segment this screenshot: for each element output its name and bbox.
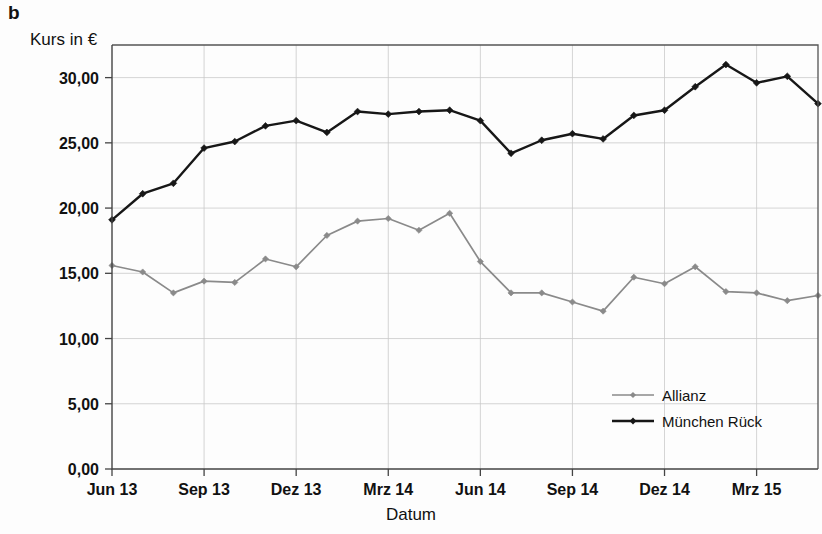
data-point-marker [293,117,300,124]
chart-legend: AllianzMünchen Rück [612,387,763,430]
legend-item[interactable]: München Rück [612,413,763,430]
x-tick-label: Jun 14 [455,481,506,498]
data-point-marker [354,218,360,224]
x-tick-label: Mrz 15 [732,481,782,498]
y-tick-label: 20,00 [59,200,99,217]
x-tick-label: Mrz 14 [363,481,413,498]
line-chart: 0,005,0010,0015,0020,0025,0030,00 Jun 13… [0,0,822,534]
x-tick-label: Dez 13 [271,481,322,498]
figure-panel: b Kurs in € Datum 0,005,0010,0015,0020,0… [0,0,822,534]
axis-lines [112,45,818,469]
x-tick-labels: Jun 13Sep 13Dez 13Mrz 14Jun 14Sep 14Dez … [87,481,782,498]
y-tick-label: 15,00 [59,265,99,282]
legend-marker [630,418,637,425]
data-point-marker [784,298,790,304]
legend-label: München Rück [662,413,763,430]
legend-marker [630,392,636,398]
y-tick-marks [105,78,112,469]
data-point-marker [416,108,423,115]
x-tick-marks [112,469,757,476]
data-series-layer [109,61,822,314]
series-line [112,65,818,220]
series-allianz [109,210,821,314]
y-tick-label: 25,00 [59,135,99,152]
y-tick-label: 10,00 [59,331,99,348]
x-tick-label: Sep 14 [547,481,599,498]
gridlines [112,45,818,469]
data-point-marker [201,278,207,284]
x-tick-label: Dez 14 [639,481,690,498]
x-tick-label: Jun 13 [87,481,138,498]
data-point-marker [385,111,392,118]
data-point-marker [446,107,453,114]
y-tick-label: 30,00 [59,70,99,87]
data-point-marker [569,299,575,305]
x-tick-label: Sep 13 [178,481,230,498]
series-muenchen-rueck [109,61,822,223]
y-tick-label: 5,00 [68,396,99,413]
data-point-marker [754,290,760,296]
legend-label: Allianz [662,387,706,404]
plot-border [112,45,818,469]
y-tick-labels: 0,005,0010,0015,0020,0025,0030,00 [59,70,99,478]
data-point-marker [539,290,545,296]
plot-frame [112,45,818,469]
data-point-marker [385,215,391,221]
y-tick-label: 0,00 [68,461,99,478]
legend-item[interactable]: Allianz [612,387,706,404]
series-line [112,213,818,311]
data-point-marker [569,130,576,137]
